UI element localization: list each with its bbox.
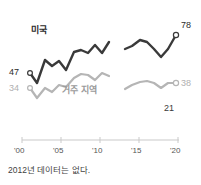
start-marker-us xyxy=(28,71,33,76)
end-value-us: 78 xyxy=(181,21,191,30)
x-tick-label-2005: '05 xyxy=(53,147,63,155)
start-value-us: 47 xyxy=(9,68,19,77)
x-tick-label-2020: '20 xyxy=(170,147,180,155)
end-marker-us xyxy=(173,32,178,37)
x-tick-label-2000: '00 xyxy=(14,147,24,155)
end-value-local: 38 xyxy=(181,79,191,88)
x-tick-label-2010: '10 xyxy=(92,147,102,155)
x-tick-label-2015: '15 xyxy=(131,147,141,155)
chart-container: 미국 거주 지역 47 34 78 38 21 '00 '05 '10 '15 … xyxy=(0,0,201,185)
series-label-local: 거주 지역 xyxy=(62,86,97,95)
end-marker-local xyxy=(173,80,178,85)
series-line-us-right xyxy=(125,35,176,57)
chart-footnote: 2012년 데이터는 없다. xyxy=(8,166,90,175)
series-line-local-right xyxy=(125,81,176,89)
start-marker-local xyxy=(28,86,33,91)
annotation-21: 21 xyxy=(164,104,174,113)
start-value-local: 34 xyxy=(9,84,19,93)
series-label-us: 미국 xyxy=(31,26,47,35)
